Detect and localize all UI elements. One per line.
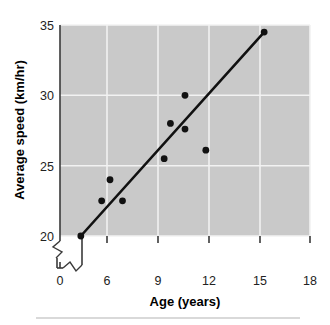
- y-tick-label-35: 35: [40, 19, 54, 33]
- data-point: [182, 126, 189, 133]
- data-point: [261, 29, 268, 36]
- data-point: [107, 176, 114, 183]
- y-tick-label-30: 30: [40, 89, 54, 103]
- data-point: [77, 233, 84, 240]
- x-tick-label-0: 0: [57, 274, 64, 288]
- y-tick-label-20: 20: [40, 230, 54, 244]
- x-tick-label-18: 18: [303, 274, 317, 288]
- x-tick-label-12: 12: [202, 274, 216, 288]
- x-tick-label-15: 15: [253, 274, 267, 288]
- x-axis: [57, 236, 310, 271]
- x-tick-marks: [60, 236, 310, 268]
- data-point: [119, 197, 126, 204]
- data-point: [161, 155, 168, 162]
- x-axis-break-icon: [63, 262, 82, 271]
- data-point: [182, 92, 189, 99]
- y-tick-labels: 35 30 25 20: [40, 19, 54, 244]
- x-tick-label-9: 9: [155, 274, 162, 288]
- data-point: [98, 197, 105, 204]
- data-point: [167, 120, 174, 127]
- y-tick-label-25: 25: [40, 160, 54, 174]
- chart-canvas: 35 30 25 20 0 6 9 12 15 18 Age (years) A…: [0, 0, 330, 325]
- data-point: [202, 147, 209, 154]
- scatter-plot-figure: 35 30 25 20 0 6 9 12 15 18 Age (years) A…: [0, 0, 330, 325]
- x-tick-label-6: 6: [104, 274, 111, 288]
- y-axis: [53, 25, 62, 268]
- x-tick-labels: 0 6 9 12 15 18: [57, 274, 317, 288]
- x-axis-title: Age (years): [150, 294, 221, 309]
- y-axis-break-icon: [53, 241, 62, 258]
- y-axis-title: Average speed (km/hr): [12, 60, 27, 200]
